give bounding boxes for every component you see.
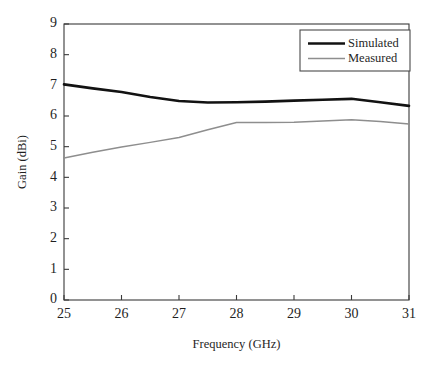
x-tick-label: 26 xyxy=(115,306,129,321)
y-tick-label: 6 xyxy=(50,107,57,122)
x-axis-title: Frequency (GHz) xyxy=(193,337,281,351)
x-tick-label: 27 xyxy=(172,306,186,321)
y-tick-label: 3 xyxy=(50,199,57,214)
x-tick-label: 30 xyxy=(345,306,359,321)
y-tick-label: 0 xyxy=(50,291,57,306)
y-tick-label: 2 xyxy=(50,230,57,245)
gain-vs-frequency-chart: 0123456789 25262728293031 Frequency (GHz… xyxy=(0,0,430,366)
x-tick-label: 28 xyxy=(230,306,244,321)
chart-legend: Simulated Measured xyxy=(300,30,410,71)
y-tick-label: 1 xyxy=(50,261,57,276)
x-tick-label: 31 xyxy=(402,306,416,321)
y-tick-label: 7 xyxy=(50,77,57,92)
x-tick-label: 25 xyxy=(57,306,71,321)
y-tick-label: 5 xyxy=(50,138,57,153)
y-tick-label: 4 xyxy=(50,169,57,184)
y-tick-label: 8 xyxy=(50,46,57,61)
y-tick-label: 9 xyxy=(50,15,57,30)
x-tick-label: 29 xyxy=(287,306,301,321)
y-axis-title: Gain (dBi) xyxy=(15,135,29,189)
legend-label-simulated: Simulated xyxy=(348,36,399,50)
legend-label-measured: Measured xyxy=(348,51,398,65)
figure-container: 0123456789 25262728293031 Frequency (GHz… xyxy=(0,0,430,366)
